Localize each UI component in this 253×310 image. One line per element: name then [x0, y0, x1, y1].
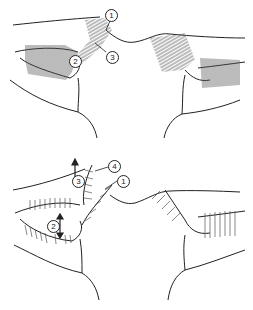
lip-drawing-top: [0, 0, 253, 155]
callout-4: 4: [108, 160, 121, 173]
callout-2: 2: [69, 55, 82, 68]
callout-1: 1: [105, 9, 118, 22]
callout-1: 1: [117, 175, 130, 188]
callout-3: 3: [106, 51, 119, 64]
callout-3: 3: [72, 175, 85, 188]
top-panel: 1 2 3: [0, 0, 253, 155]
callout-2: 2: [47, 220, 60, 233]
bottom-panel: 3 4 1 2: [0, 155, 253, 310]
